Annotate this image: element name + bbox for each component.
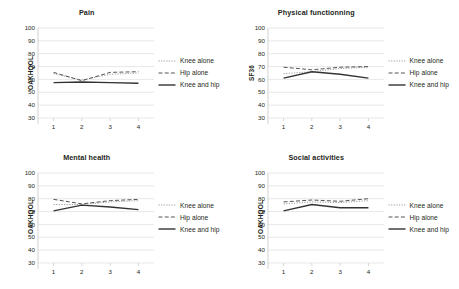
svg-text:40: 40 — [258, 101, 265, 108]
svg-text:1: 1 — [281, 123, 285, 130]
chart-title: Physical functionning — [230, 8, 459, 17]
svg-text:30: 30 — [258, 114, 265, 121]
svg-text:1: 1 — [52, 123, 56, 130]
legend-label: Knee and hip — [180, 226, 219, 233]
svg-text:100: 100 — [254, 169, 265, 176]
svg-text:4: 4 — [366, 123, 370, 130]
svg-text:2: 2 — [80, 268, 84, 275]
plot-area: 304050607080901001234 — [22, 22, 157, 134]
svg-text:90: 90 — [258, 37, 265, 44]
svg-text:100: 100 — [25, 24, 36, 31]
svg-text:80: 80 — [258, 195, 265, 202]
svg-text:2: 2 — [80, 123, 84, 130]
svg-text:4: 4 — [366, 268, 370, 275]
legend-item: Hip alone — [388, 211, 459, 223]
svg-text:4: 4 — [137, 268, 141, 275]
svg-text:4: 4 — [137, 123, 141, 130]
svg-text:80: 80 — [28, 195, 35, 202]
svg-text:50: 50 — [28, 88, 35, 95]
line-chart-svg: 304050607080901001234 — [22, 22, 157, 134]
line-chart-svg: 304050607080901001234 — [252, 22, 387, 134]
legend-label: Hip alone — [180, 214, 208, 221]
plot-area: 304050607080901001234 — [22, 167, 157, 279]
svg-text:60: 60 — [28, 221, 35, 228]
legend-item: Knee alone — [388, 55, 459, 67]
legend-line-icon — [158, 69, 176, 77]
legend-label: Knee alone — [410, 202, 444, 209]
series-line — [283, 67, 368, 70]
legend-line-icon — [388, 201, 406, 209]
svg-text:1: 1 — [281, 268, 285, 275]
legend-label: Knee alone — [410, 57, 444, 64]
series-line — [54, 82, 139, 83]
chart-title: Mental health — [0, 153, 230, 162]
svg-text:40: 40 — [28, 101, 35, 108]
chart-grid: Pain OAKHQOL 304050607080901001234 Knee … — [0, 0, 459, 289]
legend-line-icon — [388, 69, 406, 77]
series-line — [283, 205, 368, 211]
legend-label: Hip alone — [410, 69, 438, 76]
plot-area: 304050607080901001234 — [252, 167, 387, 279]
chart-panel-social-activities: Social activities OAKHQOL 30405060708090… — [230, 145, 459, 289]
series-line — [283, 199, 368, 202]
legend-item: Knee and hip — [388, 223, 459, 235]
svg-text:3: 3 — [108, 123, 112, 130]
svg-text:70: 70 — [28, 208, 35, 215]
legend-line-icon — [158, 225, 176, 233]
svg-text:60: 60 — [28, 76, 35, 83]
svg-text:3: 3 — [338, 268, 342, 275]
chart-title: Pain — [0, 8, 230, 17]
svg-text:90: 90 — [28, 37, 35, 44]
svg-text:3: 3 — [108, 268, 112, 275]
legend-item: Knee and hip — [388, 79, 459, 91]
svg-text:50: 50 — [258, 88, 265, 95]
legend-line-icon — [388, 213, 406, 221]
legend-label: Knee alone — [180, 57, 214, 64]
legend-label: Hip alone — [410, 214, 438, 221]
chart-legend: Knee aloneHip aloneKnee and hip — [158, 55, 230, 91]
svg-text:30: 30 — [258, 259, 265, 266]
legend-item: Hip alone — [158, 211, 230, 223]
legend-item: Knee and hip — [158, 223, 230, 235]
legend-item: Hip alone — [388, 67, 459, 79]
line-chart-svg: 304050607080901001234 — [252, 167, 387, 279]
legend-line-icon — [158, 201, 176, 209]
svg-text:60: 60 — [258, 76, 265, 83]
svg-text:70: 70 — [258, 63, 265, 70]
svg-text:100: 100 — [254, 24, 265, 31]
legend-line-icon — [388, 81, 406, 89]
legend-label: Knee and hip — [180, 81, 219, 88]
chart-panel-physical-functionning: Physical functionning SF36 3040506070809… — [230, 0, 459, 145]
legend-item: Hip alone — [158, 67, 230, 79]
series-line — [54, 205, 139, 211]
svg-text:90: 90 — [258, 182, 265, 189]
plot-area: 304050607080901001234 — [252, 22, 387, 134]
legend-label: Hip alone — [180, 69, 208, 76]
legend-label: Knee and hip — [410, 226, 449, 233]
legend-item: Knee alone — [158, 55, 230, 67]
legend-item: Knee alone — [158, 199, 230, 211]
svg-text:30: 30 — [28, 259, 35, 266]
series-line — [283, 72, 368, 78]
legend-line-icon — [158, 81, 176, 89]
svg-text:70: 70 — [258, 208, 265, 215]
line-chart-svg: 304050607080901001234 — [22, 167, 157, 279]
svg-text:50: 50 — [28, 233, 35, 240]
chart-legend: Knee aloneHip aloneKnee and hip — [388, 55, 459, 91]
svg-text:80: 80 — [28, 50, 35, 57]
chart-panel-mental-health: Mental health OAKHQOL 304050607080901001… — [0, 145, 230, 289]
chart-legend: Knee aloneHip aloneKnee and hip — [388, 199, 459, 235]
svg-text:70: 70 — [28, 63, 35, 70]
svg-text:3: 3 — [338, 123, 342, 130]
legend-item: Knee and hip — [158, 79, 230, 91]
svg-text:40: 40 — [258, 246, 265, 253]
svg-text:30: 30 — [28, 114, 35, 121]
legend-label: Knee alone — [180, 202, 214, 209]
legend-line-icon — [158, 213, 176, 221]
legend-line-icon — [388, 57, 406, 65]
legend-line-icon — [388, 225, 406, 233]
chart-legend: Knee aloneHip aloneKnee and hip — [158, 199, 230, 235]
svg-text:60: 60 — [258, 221, 265, 228]
chart-title: Social activities — [230, 153, 459, 162]
svg-text:80: 80 — [258, 50, 265, 57]
